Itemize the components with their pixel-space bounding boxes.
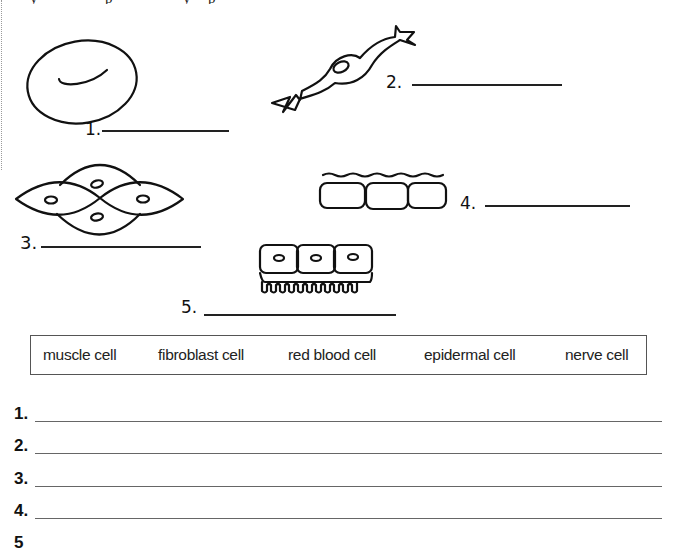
answer-number: 5 bbox=[14, 533, 23, 552]
diagram-label-2: 2. bbox=[386, 72, 402, 92]
word-bank-item: fibroblast cell bbox=[158, 346, 244, 364]
word-bank-item: red blood cell bbox=[288, 346, 376, 364]
word-bank-item: nerve cell bbox=[565, 346, 628, 364]
answer-number: 2. bbox=[14, 436, 28, 456]
answer-row: 3. bbox=[14, 463, 664, 487]
answer-row: 1. bbox=[14, 398, 664, 422]
word-bank-item: muscle cell bbox=[43, 346, 116, 364]
answer-number: 1. bbox=[14, 404, 28, 424]
diagram-label-1: 1. bbox=[85, 119, 101, 139]
word-bank-item: epidermal cell bbox=[424, 346, 515, 364]
diagram-label-5: 5. bbox=[181, 297, 197, 317]
diagram-blank-4[interactable] bbox=[485, 205, 630, 207]
cube-cells-drawing bbox=[260, 245, 372, 293]
diagram-blank-5[interactable] bbox=[204, 314, 396, 316]
answer-number: 3. bbox=[14, 469, 28, 489]
answer-row: 2. bbox=[14, 430, 664, 454]
diagram-label-4: 4. bbox=[460, 193, 476, 213]
answer-row: 5 bbox=[14, 527, 664, 551]
diagram-label-3: 3. bbox=[20, 232, 37, 253]
lens-cells-drawing bbox=[16, 165, 183, 235]
answer-line-3[interactable] bbox=[35, 486, 662, 487]
spindle-cell-drawing bbox=[272, 26, 415, 112]
word-bank: muscle cell fibroblast cell red blood ce… bbox=[30, 335, 647, 375]
red-blood-cell-drawing bbox=[21, 32, 144, 132]
diagram-blank-3[interactable] bbox=[41, 246, 201, 248]
answer-row: 4. bbox=[14, 495, 664, 519]
answer-line-2[interactable] bbox=[35, 453, 662, 454]
answer-line-1[interactable] bbox=[35, 421, 662, 422]
diagram-blank-1[interactable] bbox=[102, 130, 229, 132]
diagram-blank-2[interactable] bbox=[412, 84, 562, 86]
answer-line-4[interactable] bbox=[35, 518, 662, 519]
epidermal-cells-drawing bbox=[320, 174, 446, 210]
answer-number: 4. bbox=[14, 501, 28, 521]
